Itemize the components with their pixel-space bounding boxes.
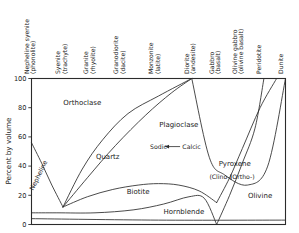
top-category-labels: Nepheline syenite(phonolite)Syenite(trac… — [23, 19, 284, 74]
category-volcanic-name: (olivine basalt) — [237, 29, 244, 74]
y-tick-label: 100 — [14, 75, 27, 83]
mineral-field-label: Plagioclase — [159, 121, 198, 129]
boundary-curve — [32, 219, 286, 221]
boundary-curve — [217, 79, 277, 203]
x-category-label: Granite(rhyolite) — [82, 46, 97, 74]
mineral-field-label: Pyroxene — [219, 160, 251, 168]
mineral-composition-chart: Nepheline syenite(phonolite)Syenite(trac… — [0, 0, 299, 233]
mineral-field-label: Olivine — [248, 192, 272, 200]
chart-annotation: (Clino-) — [209, 173, 232, 180]
chart-annotation: (Ortho-) — [230, 173, 255, 180]
mineral-field-labels: OrthoclaseQuartzNephelinePlagioclaseBiot… — [28, 99, 272, 217]
chart-annotation: Sodic — [150, 143, 167, 150]
x-category-label: Nepheline syenite(phonolite) — [23, 19, 38, 74]
chart-svg: Nepheline syenite(phonolite)Syenite(trac… — [0, 0, 299, 233]
mineral-field-label: Hornblende — [164, 208, 205, 216]
category-rock-name: Peridotite — [255, 45, 262, 74]
x-category-label: Dunite — [277, 54, 284, 74]
category-volcanic-name: (basalt) — [214, 51, 221, 74]
y-tick-label: 60 — [18, 133, 26, 141]
category-volcanic-name: (latite) — [154, 54, 161, 74]
y-axis-ticks: 020406080100 — [14, 75, 32, 229]
category-volcanic-name: (andesite) — [189, 43, 196, 74]
x-category-label: Monzonite(latite) — [147, 42, 161, 74]
boundary-curve — [217, 79, 264, 225]
y-tick-label: 20 — [18, 192, 26, 200]
y-axis-title: Percent by volume — [4, 117, 13, 185]
mineral-field-label: Biotite — [127, 188, 150, 196]
category-volcanic-name: (trachyte) — [61, 44, 69, 74]
y-tick-label: 0 — [22, 221, 26, 229]
mineral-field-label: Orthoclase — [63, 99, 101, 107]
x-category-label: Diorite(andesite) — [183, 43, 197, 74]
category-volcanic-name: (phonolite) — [29, 41, 37, 74]
x-category-label: Gabbro(basalt) — [208, 51, 222, 74]
category-volcanic-name: (dacite) — [119, 50, 126, 74]
x-category-label: Olivine gabbro(olivine basalt) — [231, 29, 245, 74]
x-category-label: Peridotite — [255, 45, 262, 74]
category-rock-name: Dunite — [277, 54, 284, 74]
y-tick-label: 40 — [18, 162, 26, 170]
mineral-field-label: Quartz — [96, 153, 120, 161]
boundary-curve — [192, 79, 286, 186]
x-category-label: Syenite(trachyte) — [54, 44, 69, 74]
chart-annotation: Calcic — [182, 143, 201, 150]
y-tick-label: 80 — [18, 104, 26, 112]
category-volcanic-name: (rhyolite) — [89, 46, 97, 74]
x-category-label: Granodiorite(dacite) — [112, 36, 126, 74]
